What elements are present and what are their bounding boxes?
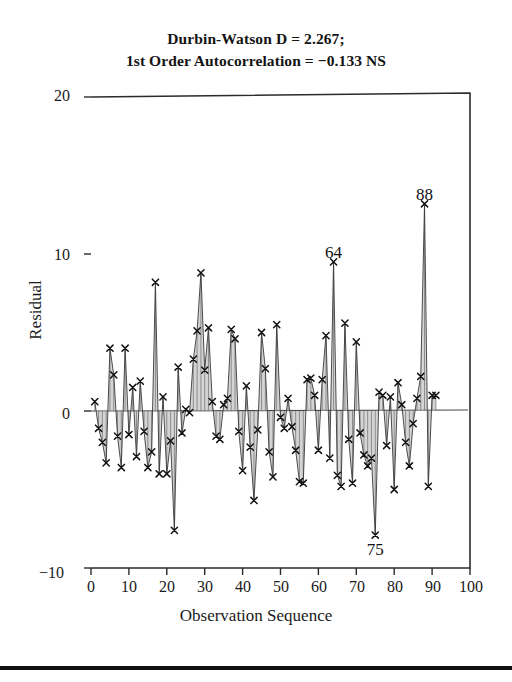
point-annotations: 648875 [325, 185, 433, 559]
svg-text:88: 88 [416, 185, 433, 204]
x-tick-marks [91, 568, 470, 575]
plot-canvas: 648875 [0, 0, 512, 682]
svg-text:64: 64 [325, 243, 343, 262]
svg-text:75: 75 [367, 540, 384, 559]
residual-plot-figure: Durbin-Watson D = 2.267; 1st Order Autoc… [0, 0, 512, 682]
y-tick-marks [84, 97, 91, 568]
series-markers [92, 201, 439, 538]
axes-frame [91, 93, 470, 568]
footer-rule [0, 666, 512, 670]
